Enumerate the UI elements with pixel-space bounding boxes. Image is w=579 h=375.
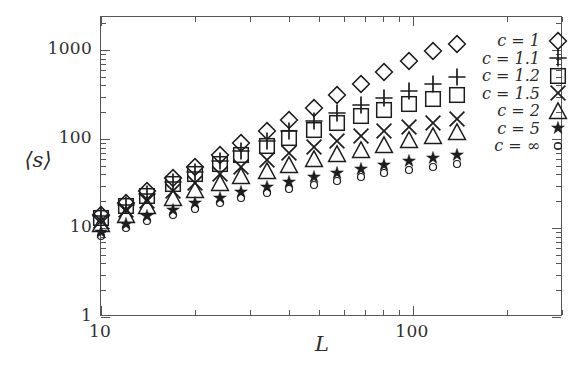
axis-tick xyxy=(101,306,102,315)
data-point xyxy=(116,195,136,215)
axis-tick xyxy=(552,317,561,318)
legend-item: c = 2 xyxy=(452,102,568,120)
data-point xyxy=(116,193,136,213)
axis-tick xyxy=(101,290,106,291)
axis-tick xyxy=(507,17,508,22)
axis-tick xyxy=(101,201,106,202)
data-point xyxy=(327,103,347,123)
data-point xyxy=(257,161,277,181)
axis-tick xyxy=(556,186,561,187)
axis-tick xyxy=(413,306,414,315)
data-point xyxy=(374,62,394,82)
axis-tick xyxy=(101,263,106,264)
legend-label: c = 1.2 xyxy=(482,66,547,85)
data-point xyxy=(210,145,230,165)
data-point xyxy=(281,174,297,190)
data-point xyxy=(185,164,205,184)
data-point xyxy=(403,164,414,175)
data-point xyxy=(187,195,203,211)
data-point xyxy=(355,171,366,182)
legend-item: c = 1.2 xyxy=(452,67,568,85)
data-point xyxy=(235,193,246,204)
axis-tick xyxy=(556,232,561,233)
data-point xyxy=(141,215,152,226)
axis-tick xyxy=(344,310,345,315)
data-point xyxy=(257,150,277,170)
data-point xyxy=(210,151,230,171)
axis-tick xyxy=(399,310,400,315)
data-point xyxy=(116,205,136,225)
axis-tick xyxy=(507,310,508,315)
data-point xyxy=(376,157,392,173)
data-point xyxy=(189,203,200,214)
legend-item: c = 1.1 xyxy=(452,50,568,68)
data-point xyxy=(351,126,371,146)
data-point xyxy=(261,188,272,199)
data-point xyxy=(279,143,299,163)
axis-tick xyxy=(101,59,106,60)
axis-tick xyxy=(365,17,366,22)
axis-tick xyxy=(413,17,414,26)
axis-tick xyxy=(101,232,106,233)
data-point xyxy=(165,202,181,218)
legend-item: c = 1 xyxy=(452,32,568,50)
data-point xyxy=(327,85,347,105)
axis-tick xyxy=(101,317,110,318)
data-point xyxy=(210,164,230,184)
data-point xyxy=(331,175,342,186)
data-point xyxy=(167,209,178,220)
diamond-icon xyxy=(547,32,568,49)
x-tick-label: 100 xyxy=(377,321,447,341)
axis-tick xyxy=(556,201,561,202)
axis-tick xyxy=(101,275,106,276)
data-point xyxy=(423,126,443,146)
data-point xyxy=(212,190,228,206)
data-point xyxy=(259,179,275,195)
data-point xyxy=(399,81,419,101)
axis-tick xyxy=(101,186,106,187)
data-point xyxy=(257,136,277,156)
axis-tick xyxy=(195,310,196,315)
axis-tick xyxy=(101,54,106,55)
data-point xyxy=(374,88,394,108)
data-point xyxy=(351,106,371,126)
axis-tick xyxy=(101,64,106,65)
data-point xyxy=(163,188,183,208)
axis-tick xyxy=(101,85,106,86)
legend: c = 1 c = 1.1 c = 1.2 c = 1.5 c = 2 c = … xyxy=(452,32,568,155)
data-point xyxy=(231,141,251,161)
data-point xyxy=(374,100,394,120)
axis-tick xyxy=(101,228,110,229)
data-point xyxy=(214,198,225,209)
axis-tick xyxy=(556,263,561,264)
axis-tick xyxy=(319,17,320,22)
data-point xyxy=(257,131,277,151)
data-point xyxy=(401,153,417,169)
axis-tick xyxy=(250,17,251,22)
data-point xyxy=(423,74,443,94)
data-point xyxy=(351,74,371,94)
axis-tick xyxy=(556,237,561,238)
axis-tick xyxy=(344,17,345,22)
axis-tick xyxy=(562,310,563,315)
legend-item: c = ∞ xyxy=(452,137,568,155)
axis-tick xyxy=(101,255,106,256)
data-point xyxy=(185,162,205,182)
axis-tick xyxy=(250,310,251,315)
axis-tick xyxy=(556,255,561,256)
axis-tick xyxy=(101,148,106,149)
triangle-icon xyxy=(547,102,568,119)
axis-tick xyxy=(399,17,400,22)
axis-tick xyxy=(101,97,106,98)
data-point xyxy=(279,155,299,175)
data-point xyxy=(163,181,183,201)
data-point xyxy=(423,89,443,109)
axis-tick xyxy=(101,139,110,140)
y-axis-label: ⟨s⟩ xyxy=(12,148,64,172)
y-tick-label: 100 xyxy=(22,127,92,147)
axis-tick xyxy=(195,17,196,22)
data-point xyxy=(231,145,251,165)
data-point xyxy=(137,184,157,204)
legend-label: c = 1 xyxy=(497,31,547,50)
axis-tick xyxy=(556,159,561,160)
